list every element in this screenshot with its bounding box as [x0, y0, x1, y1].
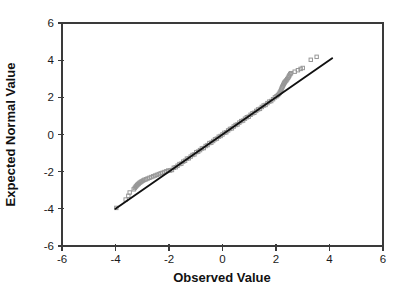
x-tick-label: 0 — [219, 253, 225, 265]
x-tick-label: -6 — [57, 253, 67, 265]
y-tick-label: 2 — [48, 91, 54, 103]
x-tick-label: 4 — [326, 253, 333, 265]
y-tick-label: 4 — [48, 54, 55, 66]
y-tick-label: 6 — [48, 17, 54, 29]
y-axis-title: Expected Normal Value — [3, 63, 18, 207]
x-tick-label: -2 — [164, 253, 174, 265]
x-tick-label: 2 — [273, 253, 279, 265]
y-tick-label: -6 — [44, 240, 54, 252]
qq-plot-figure: -6-4-20246-6-4-20246 Observed Value Expe… — [0, 0, 405, 299]
y-tick-label: -2 — [44, 166, 54, 178]
x-tick-label: -4 — [110, 253, 121, 265]
x-axis-title: Observed Value — [173, 270, 271, 285]
chart-canvas: -6-4-20246-6-4-20246 Observed Value Expe… — [0, 0, 405, 299]
normal-reference-line — [116, 58, 333, 209]
y-tick-label: 0 — [48, 129, 54, 141]
x-tick-label: 6 — [380, 253, 386, 265]
y-tick-label: -4 — [44, 203, 55, 215]
reference-line — [116, 58, 333, 209]
data-point-marker — [309, 58, 312, 61]
scatter-points — [115, 55, 319, 209]
data-point-marker — [315, 55, 318, 58]
